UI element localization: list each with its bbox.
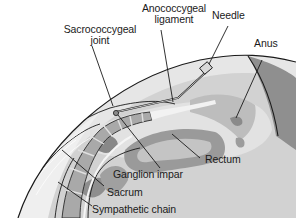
label-line-2: joint (52, 35, 148, 46)
label-sacrum: Sacrum (107, 187, 143, 198)
label-needle: Needle (212, 10, 245, 21)
label-rectum: Rectum (205, 154, 241, 165)
anatomy-illustration (0, 0, 296, 218)
ganglion-impar-marker (113, 110, 118, 115)
label-anococcygeal-ligament: Anococcygeal ligament (126, 3, 222, 25)
label-line-2: ligament (126, 14, 222, 25)
body-section (18, 55, 296, 218)
label-sacrococcygeal-joint: Sacrococcygeal joint (52, 24, 148, 46)
label-sympathetic-chain: Sympathetic chain (92, 204, 176, 215)
label-ganglion-impar: Ganglion impar (113, 169, 183, 180)
diagram-stage: Sacrococcygeal joint Anococcygeal ligame… (0, 0, 296, 218)
label-anus: Anus (254, 38, 278, 49)
